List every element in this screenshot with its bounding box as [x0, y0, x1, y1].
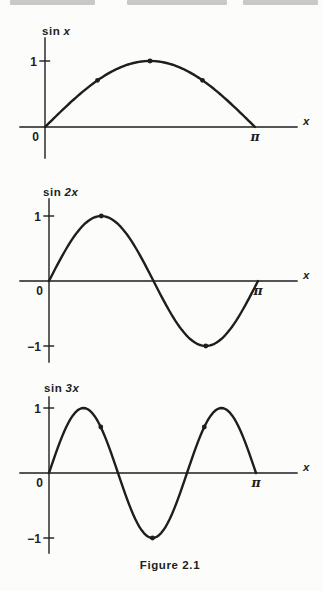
x-axis-label: x — [302, 115, 310, 127]
data-dot — [203, 344, 208, 349]
origin-label: 0 — [32, 130, 39, 144]
x-axis-label: x — [302, 269, 310, 281]
y-tick-label: 1 — [34, 210, 41, 224]
data-dot — [200, 78, 205, 83]
function-label: sin2x — [43, 186, 78, 198]
origin-label: 0 — [36, 476, 43, 490]
y-tick-label: −1 — [27, 340, 41, 354]
sine-curve — [45, 61, 255, 127]
origin-label: 0 — [36, 284, 43, 298]
data-dot — [202, 425, 207, 430]
figure-2-1-plots: 1sinx0πx1−1sin2x0πx1−1sin3x0πx — [0, 0, 323, 591]
data-dot — [95, 78, 100, 83]
pi-label: π — [252, 283, 263, 298]
y-tick-label: 1 — [30, 55, 37, 69]
figure-caption: Figure 2.1 — [17, 559, 323, 571]
data-dot — [150, 536, 155, 541]
plot-sin-3x: 1−1sin3x0πx — [20, 382, 310, 553]
scanned-textbook-page: 1sinx0πx1−1sin2x0πx1−1sin3x0πx Figure 2.… — [0, 0, 323, 591]
pi-label: π — [250, 475, 261, 490]
function-label: sinx — [42, 25, 70, 37]
plot-sin-x: 1sinx0πx — [20, 25, 310, 158]
pi-label: π — [249, 129, 260, 144]
function-label: sin3x — [44, 382, 79, 394]
x-axis-label: x — [302, 461, 310, 473]
data-dot — [148, 59, 153, 64]
plot-sin-2x: 1−1sin2x0πx — [20, 186, 310, 362]
data-dot — [99, 214, 104, 219]
y-tick-label: −1 — [27, 532, 41, 546]
y-tick-label: 1 — [34, 402, 41, 416]
data-dot — [98, 425, 103, 430]
